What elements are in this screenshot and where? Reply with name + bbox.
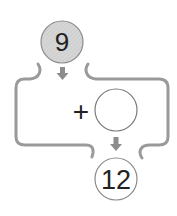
down-arrow-icon <box>110 137 122 151</box>
output-node: 12 <box>95 158 137 200</box>
operator-symbol: + <box>73 96 89 127</box>
operand-node[interactable] <box>95 89 137 131</box>
down-arrow-icon <box>57 67 69 80</box>
input-value: 9 <box>55 27 69 57</box>
function-machine-diagram: 9 + 12 <box>0 0 177 216</box>
input-node: 9 <box>41 21 83 63</box>
output-value: 12 <box>101 165 131 195</box>
machine-outline <box>16 64 168 158</box>
